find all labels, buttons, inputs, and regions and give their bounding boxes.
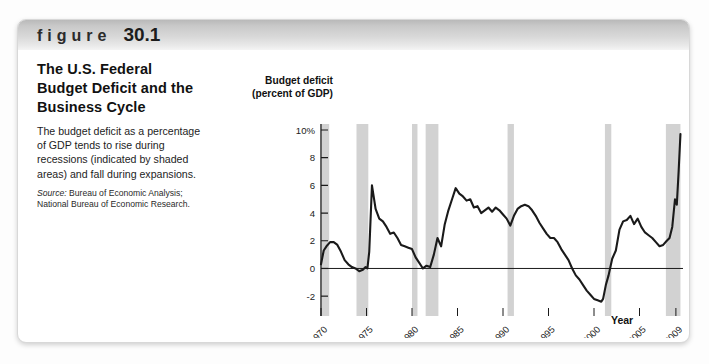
figure-header-band: figure 30.1 <box>18 20 689 50</box>
source-label: Source: <box>37 188 67 198</box>
deficit-series-line <box>321 134 680 302</box>
y-tick-label: -2 <box>306 291 315 302</box>
y-tick-label: 8 <box>310 152 315 163</box>
x-tick-label: 2009 <box>662 324 683 338</box>
caption-column: The U.S. Federal Budget Deficit and the … <box>37 60 205 210</box>
recession-band <box>412 124 417 316</box>
figure-description: The budget deficit as a percentage of GD… <box>37 124 205 181</box>
y-tick-label: 10% <box>296 125 316 136</box>
figure-word-label: figure <box>37 27 111 45</box>
figure-number-label: 30.1 <box>123 24 160 46</box>
recession-band <box>426 124 439 316</box>
y-tick-label: 0 <box>310 263 315 274</box>
x-tick-label: 1985 <box>443 324 466 338</box>
x-tick-label: 1975 <box>352 324 375 338</box>
x-tick-label: 1970 <box>307 324 330 338</box>
page-root: figure 30.1 The U.S. Federal Budget Defi… <box>0 0 709 364</box>
recession-band <box>356 124 368 316</box>
x-tick-label: 2000 <box>580 324 603 338</box>
figure-source: Source: Bureau of Economic Analysis; Nat… <box>37 188 205 211</box>
chart-container: Budget deficit (percent of GDP) 10%86420… <box>213 60 683 338</box>
y-tick-label: 6 <box>310 180 315 191</box>
x-tick-label: 1980 <box>398 324 421 338</box>
figure-header-inner: figure 30.1 <box>37 24 160 46</box>
figure-title: The U.S. Federal Budget Deficit and the … <box>37 60 205 117</box>
x-tick-label: 1990 <box>489 324 512 338</box>
figure-card: figure 30.1 The U.S. Federal Budget Defi… <box>17 19 690 343</box>
budget-deficit-line-chart: 10%86420-2 19701975198019851990199520002… <box>213 60 683 338</box>
x-axis-title: Year <box>611 314 633 326</box>
y-tick-labels-group: 10%86420-2 <box>296 125 316 302</box>
y-tick-label: 4 <box>310 208 316 219</box>
y-tick-label: 2 <box>310 235 315 246</box>
x-tick-label: 1995 <box>534 324 557 338</box>
